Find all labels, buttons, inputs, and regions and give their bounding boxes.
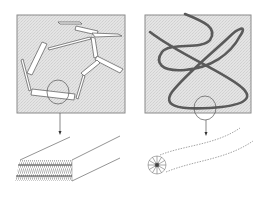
left-zoom-arrow (59, 113, 62, 135)
micelle-head (148, 156, 166, 174)
lamellar-fiber-block (15, 136, 120, 181)
diagram-canvas (0, 0, 270, 198)
right-panel (145, 14, 251, 120)
left-panel (17, 15, 125, 113)
micelle-structure (148, 128, 253, 174)
right-zoom-arrow (205, 120, 208, 136)
